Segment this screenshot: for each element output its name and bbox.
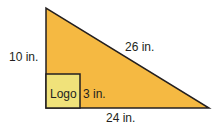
logo-label: Logo [50,88,77,100]
base-label: 24 in. [106,112,135,124]
height-label: 10 in. [9,51,38,63]
logo-side-label: 3 in. [83,88,106,100]
hypotenuse-label: 26 in. [125,41,154,53]
